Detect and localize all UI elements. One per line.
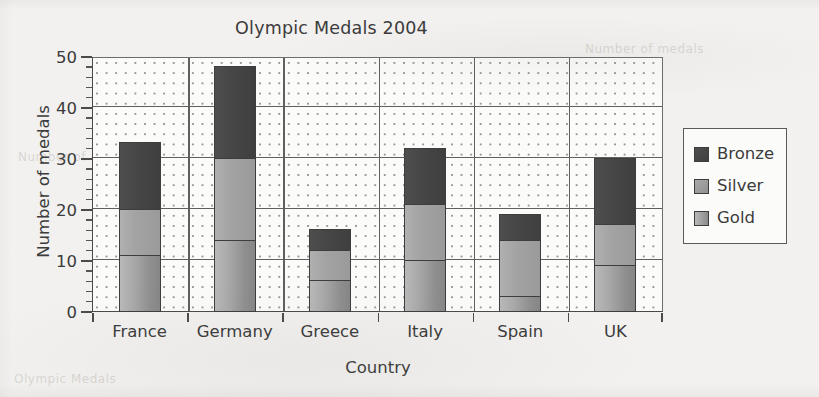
bar-segment-italy-bronze[interactable] — [404, 148, 446, 205]
bleed-through-text-top-right: Number of medals — [585, 42, 704, 56]
chart-title: Olympic Medals 2004 — [0, 18, 663, 38]
y-tick-6 — [86, 281, 92, 282]
y-tick-48 — [86, 66, 92, 67]
x-tick-3 — [378, 313, 380, 322]
bar-segment-france-bronze[interactable] — [119, 142, 161, 210]
x-axis-label-greece: Greece — [282, 322, 377, 341]
bar-segment-greece-bronze[interactable] — [309, 229, 351, 251]
y-tick-12 — [86, 250, 92, 251]
bar-segment-greece-silver[interactable] — [309, 250, 351, 282]
bar-segment-uk-silver[interactable] — [594, 224, 636, 266]
bar-segment-germany-silver[interactable] — [214, 158, 256, 241]
legend-label-gold: Gold — [717, 210, 755, 227]
bar-series-container — [92, 57, 663, 312]
x-tick-2 — [282, 313, 284, 322]
y-tick-label-0: 0 — [67, 303, 78, 322]
legend-item-gold[interactable]: Gold — [694, 202, 786, 234]
bar-segment-greece-gold[interactable] — [309, 280, 351, 312]
y-tick-38 — [86, 117, 92, 118]
bar-stack-france[interactable] — [119, 144, 161, 312]
y-tick-26 — [86, 179, 92, 180]
x-axis-label-france: France — [92, 322, 187, 341]
x-axis-label-spain: Spain — [473, 322, 568, 341]
bar-segment-uk-bronze[interactable] — [594, 158, 636, 226]
x-tick-6 — [661, 313, 663, 322]
y-tick-30 — [81, 158, 92, 160]
y-tick-label-20: 20 — [56, 201, 77, 220]
x-tick-4 — [473, 313, 475, 322]
bar-segment-germany-bronze[interactable] — [214, 66, 256, 159]
y-tick-34 — [86, 138, 92, 139]
y-tick-2 — [86, 301, 92, 302]
y-tick-46 — [86, 77, 92, 78]
y-tick-4 — [86, 291, 92, 292]
y-tick-44 — [86, 87, 92, 88]
y-tick-label-50: 50 — [56, 48, 77, 67]
y-tick-40 — [81, 107, 92, 109]
x-axis-title: Country — [92, 358, 664, 377]
y-tick-42 — [86, 97, 92, 98]
bar-stack-greece[interactable] — [309, 230, 351, 312]
x-axis-labels: FranceGermanyGreeceItalySpainUK — [92, 322, 664, 348]
bar-segment-uk-gold[interactable] — [594, 265, 636, 312]
y-tick-label-10: 10 — [56, 252, 77, 271]
bar-stack-uk[interactable] — [594, 159, 636, 312]
x-axis-label-germany: Germany — [187, 322, 282, 341]
y-tick-36 — [86, 128, 92, 129]
x-tick-1 — [187, 313, 189, 322]
chart-page: Number of medals Number of medals Olympi… — [0, 0, 819, 397]
x-tick-0 — [92, 313, 94, 322]
bar-segment-france-silver[interactable] — [119, 209, 161, 256]
bar-segment-spain-bronze[interactable] — [499, 214, 541, 241]
x-tick-5 — [568, 313, 570, 322]
y-tick-22 — [86, 199, 92, 200]
bar-stack-germany[interactable] — [214, 67, 256, 312]
y-tick-label-30: 30 — [56, 150, 77, 169]
y-tick-20 — [81, 209, 92, 211]
legend-swatch-gold-icon — [694, 211, 709, 226]
x-axis-label-italy: Italy — [378, 322, 473, 341]
bar-segment-italy-gold[interactable] — [404, 260, 446, 312]
y-axis: 01020304050 — [0, 57, 92, 313]
y-tick-label-40: 40 — [56, 99, 77, 118]
y-tick-16 — [86, 230, 92, 231]
bar-segment-spain-gold[interactable] — [499, 295, 541, 312]
legend-label-silver: Silver — [717, 178, 763, 195]
bar-segment-spain-silver[interactable] — [499, 239, 541, 296]
bar-stack-italy[interactable] — [404, 149, 446, 312]
y-tick-18 — [86, 219, 92, 220]
legend-item-bronze[interactable]: Bronze — [694, 138, 786, 170]
legend-swatch-silver-icon — [694, 179, 709, 194]
chart-legend: BronzeSilverGold — [683, 128, 787, 244]
bar-segment-germany-gold[interactable] — [214, 239, 256, 312]
bar-stack-spain[interactable] — [499, 215, 541, 312]
bar-segment-italy-silver[interactable] — [404, 204, 446, 261]
legend-swatch-bronze-icon — [694, 147, 709, 162]
y-tick-14 — [86, 240, 92, 241]
bar-segment-france-gold[interactable] — [119, 255, 161, 312]
y-tick-28 — [86, 168, 92, 169]
y-tick-10 — [81, 260, 92, 262]
legend-label-bronze: Bronze — [717, 146, 774, 163]
x-axis-label-uk: UK — [568, 322, 663, 341]
y-tick-50 — [81, 56, 92, 58]
y-tick-24 — [86, 189, 92, 190]
y-tick-32 — [86, 148, 92, 149]
y-tick-0 — [81, 311, 92, 313]
legend-item-silver[interactable]: Silver — [694, 170, 786, 202]
y-tick-8 — [86, 270, 92, 271]
